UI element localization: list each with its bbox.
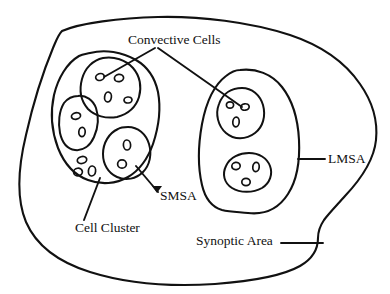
nucleus [71,112,81,120]
label-synoptic-area: Synoptic Area [196,234,273,248]
nucleus [252,162,259,172]
nucleus [124,97,133,104]
leader-convective-cells-right [158,48,242,107]
nucleus [226,102,233,108]
label-convective-cells: Convective Cells [128,33,221,47]
nucleus-free [76,155,87,164]
convective-cell-cluster-left [59,96,98,150]
nucleus [104,92,112,103]
label-lmsa: LMSA [328,152,366,166]
nucleus [118,160,127,168]
nucleus [242,178,250,185]
nucleus [78,127,85,137]
label-cell-cluster: Cell Cluster [75,221,140,235]
nucleus [231,162,241,171]
diagram-canvas: Convective Cells LMSA SMSA Cell Cluster … [0,0,390,294]
nucleus [123,140,131,150]
convective-cell-cluster-upper [81,57,141,117]
nucleus [114,74,124,83]
label-smsa: SMSA [160,189,197,203]
leader-cell-cluster [84,178,100,220]
convective-cell-cluster-lower [103,127,150,179]
nucleus-free [88,166,96,177]
nucleus [232,117,239,127]
